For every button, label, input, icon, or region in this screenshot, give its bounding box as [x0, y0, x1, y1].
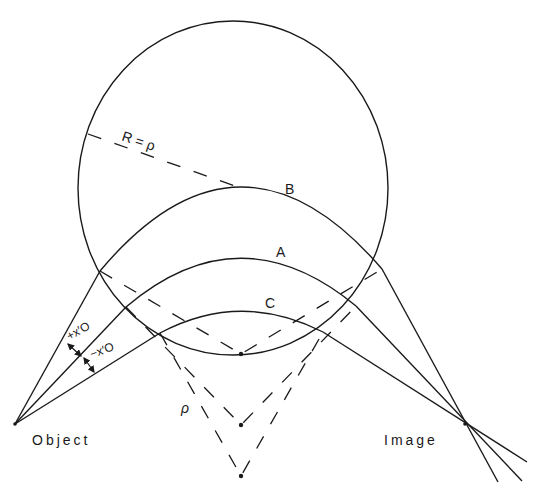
radius-line [88, 134, 235, 186]
label-object: Object [32, 432, 90, 448]
center-dot-2 [239, 423, 243, 427]
image-ray-1 [382, 269, 498, 482]
object-point [13, 422, 17, 426]
arc-a [126, 258, 356, 307]
optics-diagram: R = ρ B A C +x′O −x′O ρ Object Image [0, 0, 544, 492]
plus-offset-arrow [68, 344, 81, 356]
image-point [463, 422, 467, 426]
label-arc-a: A [276, 244, 285, 260]
arc-c [160, 311, 323, 333]
reference-circle [78, 21, 388, 355]
image-ray-2 [356, 306, 522, 481]
label-arc-c: C [265, 295, 275, 311]
label-rho: ρ [181, 400, 189, 416]
normal-lines-a [126, 306, 356, 425]
center-dot-1 [239, 352, 243, 356]
label-arc-b: B [285, 181, 294, 197]
diagram-drawing [0, 0, 544, 492]
center-dot-3 [239, 474, 243, 478]
label-image: Image [384, 432, 438, 448]
